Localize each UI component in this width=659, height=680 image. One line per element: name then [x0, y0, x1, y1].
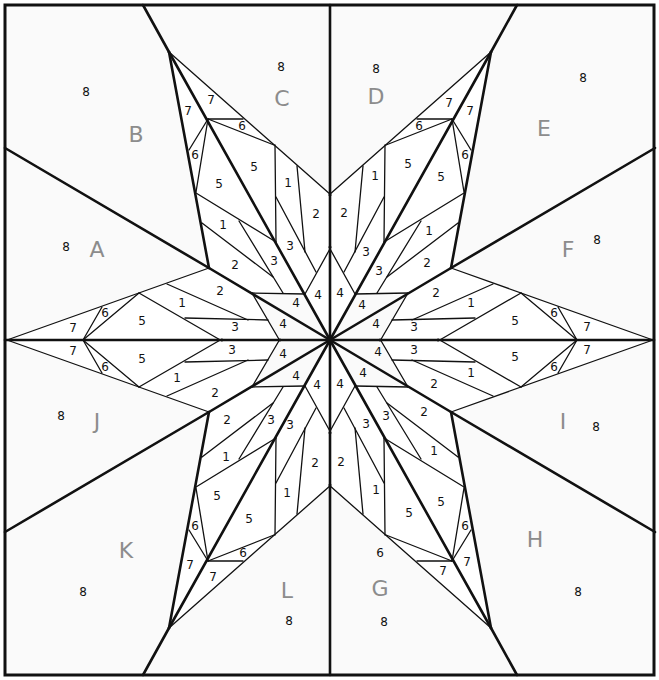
- piece-number: 2: [432, 286, 440, 300]
- piece-number: 7: [445, 96, 453, 110]
- piece-number: 5: [437, 495, 445, 509]
- section-letter-h: H: [527, 527, 544, 552]
- piece-number: 1: [467, 366, 475, 380]
- piece-number: 6: [101, 306, 109, 320]
- section-letter-c: C: [274, 86, 289, 111]
- piece-number: 2: [337, 455, 345, 469]
- piece-number: 6: [376, 546, 384, 560]
- piece-number: 2: [340, 206, 348, 220]
- piece-number: 8: [277, 60, 285, 74]
- section-letter-l: L: [281, 578, 293, 603]
- piece-number: 6: [461, 519, 469, 533]
- piece-number: 3: [382, 409, 390, 423]
- piece-number: 1: [219, 218, 227, 232]
- piece-number: 4: [372, 317, 380, 331]
- piece-number: 1: [283, 486, 291, 500]
- section-letter-g: G: [371, 576, 388, 601]
- piece-number: 1: [222, 450, 230, 464]
- piece-number: 8: [579, 71, 587, 85]
- piece-number: 7: [207, 93, 215, 107]
- piece-number: 4: [336, 377, 344, 391]
- piece-number: 4: [292, 369, 300, 383]
- piece-number: 3: [286, 239, 294, 253]
- section-letter-b: B: [128, 122, 143, 147]
- piece-number: 4: [279, 347, 287, 361]
- piece-number: 1: [371, 169, 379, 183]
- piece-number: 7: [583, 320, 591, 334]
- piece-number: 2: [430, 377, 438, 391]
- piece-number: 3: [286, 418, 294, 432]
- piece-number: 7: [69, 321, 77, 335]
- piece-number: 7: [184, 104, 192, 118]
- piece-number: 6: [550, 306, 558, 320]
- piece-number: 3: [267, 413, 275, 427]
- piece-number: 8: [57, 409, 65, 423]
- center-point: [327, 337, 333, 343]
- piece-number: 8: [285, 614, 293, 628]
- piece-number: 4: [374, 345, 382, 359]
- piece-number: 3: [231, 320, 239, 334]
- section-letter-i: I: [560, 409, 567, 434]
- piece-number: 1: [173, 371, 181, 385]
- piece-number: 1: [430, 444, 438, 458]
- piece-number: 6: [191, 148, 199, 162]
- piece-number: 1: [284, 176, 292, 190]
- piece-number: 3: [410, 343, 418, 357]
- piece-number: 7: [69, 344, 77, 358]
- section-letter-j: J: [94, 409, 101, 434]
- piece-number: 4: [336, 286, 344, 300]
- piece-number: 7: [439, 564, 447, 578]
- piece-number: 1: [467, 296, 475, 310]
- piece-number: 6: [550, 360, 558, 374]
- piece-number: 8: [79, 585, 87, 599]
- piece-number: 8: [593, 233, 601, 247]
- piece-number: 2: [231, 258, 239, 272]
- piece-number: 4: [358, 298, 366, 312]
- piece-number: 4: [359, 366, 367, 380]
- piece-number: 2: [223, 413, 231, 427]
- piece-number: 8: [62, 240, 70, 254]
- piece-number: 1: [178, 296, 186, 310]
- piece-number: 7: [466, 104, 474, 118]
- piece-number: 3: [270, 254, 278, 268]
- piece-number: 4: [292, 296, 300, 310]
- piece-number: 5: [511, 314, 519, 328]
- piece-number: 8: [380, 615, 388, 629]
- piece-number: 5: [215, 177, 223, 191]
- piece-number: 7: [463, 555, 471, 569]
- section-letter-d: D: [368, 84, 385, 109]
- piece-number: 4: [313, 378, 321, 392]
- piece-number: 3: [228, 343, 236, 357]
- piece-number: 7: [209, 570, 217, 584]
- piece-number: 7: [583, 343, 591, 357]
- piece-number: 2: [211, 386, 219, 400]
- piece-number: 3: [362, 417, 370, 431]
- piece-number: 1: [425, 224, 433, 238]
- piece-number: 8: [574, 585, 582, 599]
- piece-number: 6: [239, 546, 247, 560]
- quilt-diagram: ABCDEFIHGLKJ8888888888887766551212334421…: [0, 0, 659, 680]
- piece-number: 4: [314, 288, 322, 302]
- piece-number: 2: [312, 207, 320, 221]
- piece-number: 8: [372, 62, 380, 76]
- piece-number: 6: [238, 119, 246, 133]
- piece-number: 5: [138, 352, 146, 366]
- section-letter-e: E: [537, 116, 551, 141]
- piece-number: 6: [461, 148, 469, 162]
- section-letter-f: F: [562, 237, 575, 262]
- piece-number: 5: [511, 350, 519, 364]
- piece-number: 5: [405, 506, 413, 520]
- piece-number: 8: [82, 85, 90, 99]
- piece-number: 2: [423, 256, 431, 270]
- piece-number: 5: [404, 157, 412, 171]
- piece-number: 8: [592, 420, 600, 434]
- piece-number: 5: [250, 160, 258, 174]
- quilt-block-drawing: [0, 0, 659, 680]
- piece-number: 2: [216, 284, 224, 298]
- piece-number: 1: [372, 483, 380, 497]
- piece-number: 2: [420, 405, 428, 419]
- piece-number: 5: [213, 489, 221, 503]
- piece-number: 6: [191, 519, 199, 533]
- section-letter-a: A: [89, 237, 104, 262]
- piece-number: 5: [138, 314, 146, 328]
